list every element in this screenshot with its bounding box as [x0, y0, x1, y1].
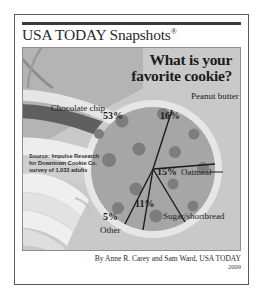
- slice-label-sugar-shortbread: Sugar/shortbread: [163, 212, 223, 222]
- slice-label-chocolate-chip: Chocolate chip: [49, 104, 105, 114]
- slice-value-sugar-shortbread: 11%: [135, 198, 154, 209]
- headline-line-1: What is your: [131, 52, 232, 68]
- slice-value-chocolate-chip: 53%: [103, 110, 123, 121]
- slice-value-other: 5%: [103, 211, 118, 222]
- slice-label-peanut-butter: Peanut butter: [191, 92, 237, 102]
- slice-value-peanut-butter: 16%: [160, 110, 180, 121]
- slice-label-peanut-butter-text: Peanut butter: [191, 91, 239, 101]
- chart-art-panel: What is your favorite cookie? Chocolate …: [22, 47, 241, 251]
- header-rule: [22, 22, 241, 25]
- headline: What is your favorite cookie?: [131, 52, 232, 83]
- byline-credit: By Anne R. Carey and Sam Ward, USA TODAY: [22, 254, 241, 263]
- source-note: Source: Impulse Research for Downtown Co…: [29, 153, 107, 175]
- brand-title-text: USA TODAY Snapshots: [22, 26, 171, 43]
- brand-title: USA TODAY Snapshots®: [22, 26, 237, 44]
- headline-line-2: favorite cookie?: [131, 68, 232, 84]
- registered-mark: ®: [171, 27, 177, 36]
- usa-today-snapshot: USA TODAY Snapshots®: [0, 0, 265, 301]
- credit-year: 2009: [22, 263, 241, 270]
- slice-label-chocolate-chip-text: Chocolate chip: [51, 103, 105, 113]
- slice-value-oatmeal: 15%: [157, 166, 177, 177]
- slice-label-oatmeal: Oatmeal: [181, 168, 212, 178]
- slice-label-other: Other: [100, 226, 121, 236]
